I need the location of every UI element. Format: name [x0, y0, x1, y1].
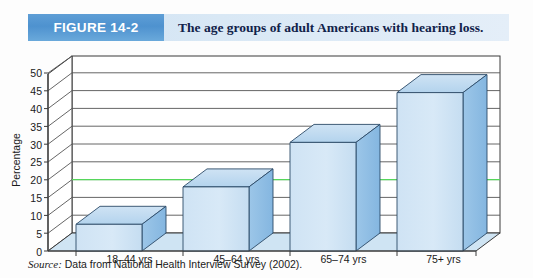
bar-side-face — [463, 75, 487, 251]
figure-caption: The age groups of adult Americans with h… — [164, 14, 509, 41]
bar-front-face — [183, 187, 249, 251]
y-tick-45: 45 — [30, 85, 42, 97]
y-axis-tick-labels: 0 5 10 15 20 25 30 35 40 45 50 — [30, 67, 42, 257]
y-tick-5: 5 — [36, 228, 42, 240]
y-tick-15: 15 — [30, 192, 42, 204]
chart-container: 0 5 10 15 20 25 30 35 40 45 50 P — [0, 48, 533, 258]
y-tick-10: 10 — [30, 210, 42, 222]
x-axis-ticks — [76, 251, 476, 256]
y-tick-50: 50 — [30, 67, 42, 79]
bar-65-74[interactable] — [290, 124, 380, 251]
bar-front-face — [76, 224, 142, 251]
source-label: Source: — [28, 258, 62, 270]
bar-75-plus[interactable] — [397, 75, 487, 251]
y-tick-20: 20 — [30, 174, 42, 186]
figure-banner: FIGURE 14-2 The age groups of adult Amer… — [28, 14, 509, 41]
bar-chart: 0 5 10 15 20 25 30 35 40 45 50 P — [0, 48, 533, 258]
y-tick-35: 35 — [30, 121, 42, 133]
bar-side-face — [356, 124, 380, 251]
source-note: Source: Data from National Health Interv… — [28, 258, 302, 270]
bar-front-face — [397, 93, 463, 251]
bar-45-64[interactable] — [183, 169, 273, 251]
y-tick-0: 0 — [36, 246, 42, 258]
y-tick-30: 30 — [30, 139, 42, 151]
y-axis-title: Percentage — [10, 133, 22, 187]
y-tick-40: 40 — [30, 103, 42, 115]
source-text: Data from National Health Interview Surv… — [62, 258, 302, 270]
y-tick-25: 25 — [30, 156, 42, 168]
bar-front-face — [290, 142, 356, 251]
figure-number-tag: FIGURE 14-2 — [28, 14, 164, 41]
